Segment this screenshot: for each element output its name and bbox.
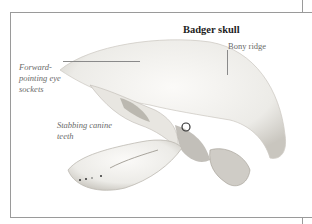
figure-title: Badger skull [183, 24, 240, 35]
label-bony-ridge: Bony ridge [228, 41, 266, 52]
label-canine-teeth: Stabbing canine teeth [57, 120, 117, 142]
leader-line-bony-ridge [227, 50, 228, 75]
page-edge-tick-top [302, 0, 303, 12]
page-edge-tick-bottom [302, 218, 303, 224]
frame-bottom-border [10, 217, 312, 218]
label-eye-sockets: Forward-pointing eye sockets [19, 62, 69, 95]
frame-top-border [10, 12, 312, 13]
leader-line-eye-sockets [63, 61, 140, 62]
badger-skull-image [50, 30, 290, 200]
frame-left-border [10, 12, 11, 218]
